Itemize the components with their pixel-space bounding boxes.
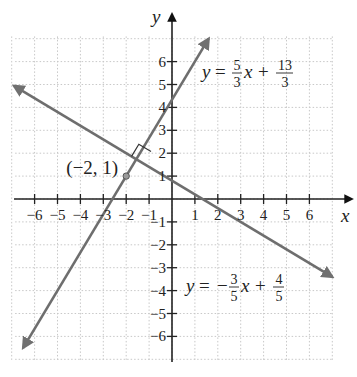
y-tick-label: 6 <box>159 54 167 70</box>
fraction-numerator: 3 <box>231 272 238 287</box>
y-tick-label: 3 <box>159 122 167 138</box>
y-tick-label: 2 <box>159 145 167 161</box>
equation-variable: x <box>243 61 253 82</box>
x-tick-label: 2 <box>214 207 222 223</box>
x-tick-label: −6 <box>27 207 43 223</box>
line-1 <box>23 39 208 348</box>
y-tick-label: 1 <box>159 168 167 184</box>
x-tick-label: 4 <box>260 207 268 223</box>
x-tick-label: 5 <box>283 207 291 223</box>
y-tick-label: −1 <box>150 214 166 230</box>
y-tick-label: 5 <box>159 77 167 93</box>
y-tick-label: −6 <box>150 328 166 344</box>
equation-lhs: y <box>184 275 195 296</box>
equation-lhs: y <box>200 61 211 82</box>
fraction-denominator: 3 <box>234 75 241 90</box>
x-tick-label: 1 <box>191 207 199 223</box>
point-label: (−2, 1) <box>66 157 118 179</box>
equation-equals: = <box>199 275 210 296</box>
y-tick-label: −2 <box>150 237 166 253</box>
y-tick-label: −5 <box>150 306 166 322</box>
x-tick-label: 6 <box>306 207 314 223</box>
labels: xy−6−5−4−3−2−1123456−6−5−4−3−2−1123456(−… <box>27 6 350 344</box>
fraction-numerator: 4 <box>276 272 283 287</box>
x-tick-label: −4 <box>72 207 88 223</box>
equation-sign: − <box>217 275 228 296</box>
x-axis-label: x <box>340 205 350 226</box>
equation-plus: + <box>258 61 269 82</box>
point-marker <box>123 173 129 179</box>
x-tick-label: −2 <box>118 207 134 223</box>
equation-label-line-1: y=53x+133 <box>200 58 293 90</box>
y-tick-label: −4 <box>150 283 166 299</box>
fraction-denominator: 3 <box>282 75 289 90</box>
equation-label-line-2: y=−35x+45 <box>184 272 284 304</box>
y-axis-label: y <box>150 6 161 27</box>
coordinate-plane: xy−6−5−4−3−2−1123456−6−5−4−3−2−1123456(−… <box>0 0 357 377</box>
equation-equals: = <box>215 61 226 82</box>
fraction-denominator: 5 <box>231 289 238 304</box>
x-tick-label: 3 <box>237 207 245 223</box>
equation-plus: + <box>255 275 266 296</box>
fraction-numerator: 13 <box>278 58 292 73</box>
fraction-denominator: 5 <box>276 289 283 304</box>
y-tick-label: 4 <box>159 99 167 115</box>
x-tick-label: −3 <box>95 207 111 223</box>
equation-variable: x <box>240 275 250 296</box>
y-tick-label: −3 <box>150 260 166 276</box>
x-tick-label: −5 <box>50 207 66 223</box>
fraction-numerator: 5 <box>234 58 241 73</box>
line-2 <box>14 86 332 277</box>
